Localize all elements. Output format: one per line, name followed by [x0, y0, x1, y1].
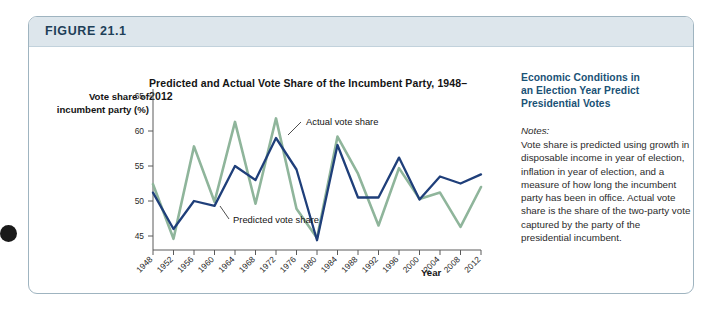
- predicted-vote-share-leader-line: [220, 206, 229, 219]
- x-axis-tick-label: 2004: [421, 254, 441, 274]
- y-axis-tick-labels: 4550556065: [135, 91, 145, 241]
- y-axis-tick-label: 55: [135, 161, 145, 171]
- notes-heading-line-2: an Election Year Predict: [521, 85, 639, 96]
- notes-body-text: Vote share is predicted using growth in …: [521, 138, 693, 244]
- line-chart-plot: 4550556065 19481952195619601964196819721…: [29, 47, 495, 294]
- chart-panel: Predicted and Actual Vote Share of the I…: [29, 47, 495, 294]
- notes-heading-line-3: Presidential Votes: [521, 98, 610, 109]
- x-axis-tick-label: 1976: [278, 254, 298, 274]
- predicted-vote-share-annotation: Predicted vote share: [233, 214, 319, 225]
- x-axis-tick-label: 1952: [155, 254, 175, 274]
- y-axis-tick-label: 60: [135, 126, 145, 136]
- actual-vote-share-annotation: Actual vote share: [306, 116, 378, 127]
- notes-heading-line-1: Economic Conditions in: [521, 72, 640, 83]
- x-axis-ticks: [153, 250, 481, 255]
- x-axis-tick-label: 1968: [237, 254, 257, 274]
- y-axis-ticks: [148, 96, 153, 236]
- x-axis-tick-labels: 1948195219561960196419681972197619801984…: [134, 254, 482, 274]
- figure-number-label: FIGURE 21.1: [45, 24, 127, 38]
- page-margin-dot: [0, 225, 17, 242]
- x-axis-tick-label: 1948: [134, 254, 154, 274]
- x-axis-tick-label: 1988: [339, 254, 359, 274]
- x-axis-tick-label: 2000: [401, 254, 421, 274]
- actual-vote-share-leader-line: [288, 122, 301, 135]
- x-axis-tick-label: 1972: [257, 254, 277, 274]
- notes-heading: Economic Conditions in an Election Year …: [521, 71, 686, 111]
- x-axis-tick-label: 1964: [216, 254, 236, 274]
- x-axis-tick-label: 2012: [462, 254, 482, 274]
- figure-header-bar: FIGURE 21.1: [29, 17, 693, 47]
- x-axis-tick-label: 1984: [319, 254, 339, 274]
- x-axis-tick-label: 1992: [360, 254, 380, 274]
- x-axis-tick-label: 1980: [298, 254, 318, 274]
- x-axis-tick-label: 2008: [442, 254, 462, 274]
- x-axis-tick-label: 1996: [380, 254, 400, 274]
- y-axis-tick-label: 45: [135, 231, 145, 241]
- notes-label: Notes:: [521, 125, 549, 136]
- x-axis-tick-label: 1956: [175, 254, 195, 274]
- y-axis-tick-label: 65: [135, 91, 145, 101]
- x-axis-tick-label: 1960: [196, 254, 216, 274]
- figure-card: FIGURE 21.1 Predicted and Actual Vote Sh…: [28, 16, 694, 294]
- y-axis-tick-label: 50: [135, 196, 145, 206]
- notes-panel: Economic Conditions in an Election Year …: [495, 47, 694, 294]
